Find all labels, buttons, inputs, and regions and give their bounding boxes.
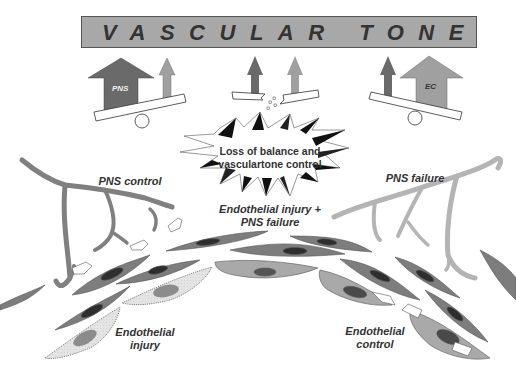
- label-endothelial-injury: Endothelial injury: [110, 326, 180, 352]
- label-pns-failure: PNS failure: [380, 172, 450, 185]
- label-line: Endothelial injury +: [215, 203, 325, 216]
- fragment: [267, 107, 270, 110]
- fulcrum: [408, 111, 422, 125]
- starburst-label: Loss of balance and vasculartone control: [210, 145, 330, 171]
- label-endothelial-control: Endothelial control: [340, 325, 410, 351]
- label-endothelial-injury-pns-failure: Endothelial injury + PNS failure: [215, 203, 325, 229]
- fragment: [269, 101, 272, 104]
- ec-arrow-icon: [287, 56, 303, 94]
- pns-arrow-icon: [247, 56, 263, 94]
- starburst-label-line2: vasculartone control: [210, 158, 330, 171]
- ec-arrow-small-icon: [159, 58, 175, 100]
- fragment: [273, 97, 276, 100]
- left-balance: [88, 58, 186, 128]
- label-line: Endothelial: [340, 325, 410, 338]
- label-line: Endothelial: [110, 326, 180, 339]
- diagram-canvas: [0, 0, 516, 374]
- label-line: injury: [110, 339, 180, 352]
- starburst-label-line1: Loss of balance and: [210, 145, 330, 158]
- broken-beam-right: [280, 90, 319, 104]
- pns-arrow-label: PNS: [112, 84, 128, 93]
- pns-arrow-small-icon: [380, 56, 396, 96]
- broken-beam-left: [232, 92, 265, 100]
- middle-balance: [232, 56, 319, 110]
- ec-arrow-label: EC: [425, 82, 436, 91]
- right-balance: [369, 56, 463, 125]
- fulcrum: [135, 114, 149, 128]
- fragment: [274, 104, 277, 107]
- label-line: control: [340, 338, 410, 351]
- label-pns-control: PNS control: [95, 175, 165, 188]
- label-line: PNS failure: [215, 216, 325, 229]
- vascular-tone-title: VASCULAR TONE: [81, 16, 477, 48]
